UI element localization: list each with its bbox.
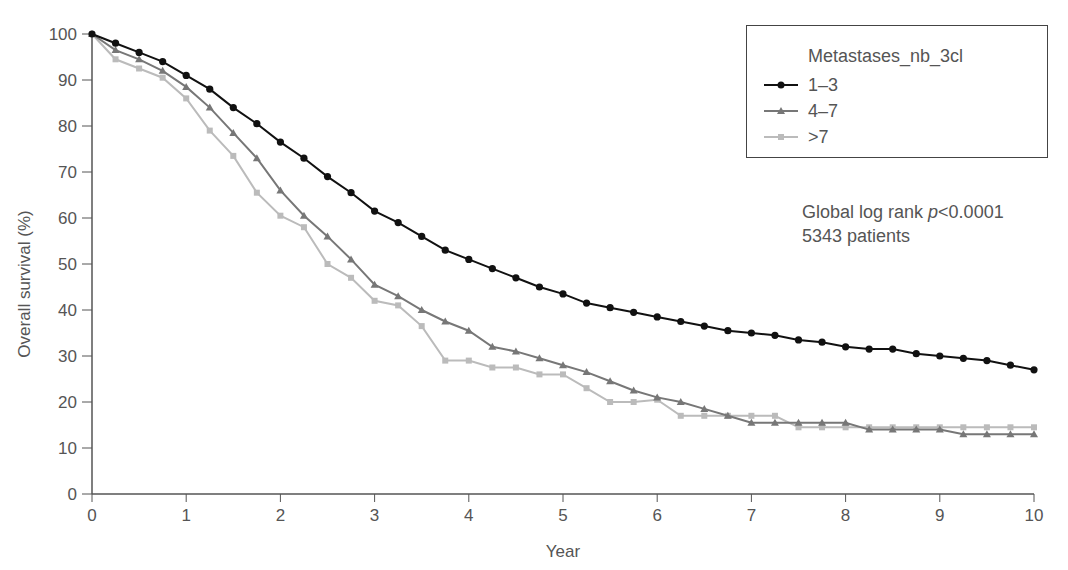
data-point xyxy=(207,128,213,134)
data-point xyxy=(631,399,637,405)
circle-marker-icon xyxy=(764,78,798,92)
data-point xyxy=(372,298,378,304)
y-tick-label: 60 xyxy=(58,209,77,228)
data-point xyxy=(371,208,378,215)
y-tick-label: 30 xyxy=(58,347,77,366)
x-tick-label: 2 xyxy=(276,506,285,525)
y-tick-label: 70 xyxy=(58,163,77,182)
data-point xyxy=(160,75,166,81)
data-point xyxy=(254,190,260,196)
data-point xyxy=(1031,424,1037,430)
legend-label: 1–3 xyxy=(808,75,838,96)
data-point xyxy=(136,49,143,56)
y-tick-label: 90 xyxy=(58,71,77,90)
data-point xyxy=(301,224,307,230)
data-point xyxy=(772,413,778,419)
data-point xyxy=(230,153,236,159)
data-point xyxy=(418,233,425,240)
data-point xyxy=(277,139,284,146)
patient-count: 5343 patients xyxy=(802,226,910,247)
data-point xyxy=(1007,424,1013,430)
x-tick-label: 5 xyxy=(558,506,567,525)
data-point xyxy=(347,189,354,196)
data-point xyxy=(866,346,873,353)
y-tick-label: 0 xyxy=(68,485,77,504)
data-point xyxy=(678,413,684,419)
data-point xyxy=(442,247,449,254)
x-tick-label: 8 xyxy=(841,506,850,525)
data-point xyxy=(324,173,331,180)
data-point xyxy=(325,261,331,267)
survival-chart: 0102030405060708090100012345678910YearOv… xyxy=(0,0,1068,570)
x-tick-label: 6 xyxy=(652,506,661,525)
data-point xyxy=(536,283,543,290)
data-point xyxy=(630,309,637,316)
data-point xyxy=(88,30,95,37)
data-point xyxy=(136,66,142,72)
data-point xyxy=(701,413,707,419)
legend-label: >7 xyxy=(808,127,829,148)
data-point xyxy=(1030,366,1037,373)
data-point xyxy=(559,290,566,297)
data-point xyxy=(607,304,614,311)
data-point xyxy=(442,358,448,364)
data-point xyxy=(489,265,496,272)
data-point xyxy=(1007,362,1014,369)
p-symbol: p xyxy=(928,202,938,222)
data-point xyxy=(183,95,189,101)
data-point xyxy=(513,365,519,371)
data-point xyxy=(419,323,425,329)
legend: Metastases_nb_3cl 1–3 4–7 >7 xyxy=(746,25,1048,158)
annotation-text: Global log rank xyxy=(802,202,928,222)
data-point xyxy=(584,385,590,391)
data-point xyxy=(960,424,966,430)
data-point xyxy=(159,58,166,65)
p-value: <0.0001 xyxy=(938,202,1004,222)
legend-item-1-3: 1–3 xyxy=(764,74,838,96)
data-point xyxy=(300,155,307,162)
y-tick-label: 20 xyxy=(58,393,77,412)
data-point xyxy=(607,399,613,405)
y-tick-label: 100 xyxy=(49,25,77,44)
data-point xyxy=(771,332,778,339)
data-point xyxy=(960,355,967,362)
legend-item-gt7: >7 xyxy=(764,126,829,148)
legend-title: Metastases_nb_3cl xyxy=(808,46,963,67)
data-point xyxy=(748,329,755,336)
x-tick-label: 0 xyxy=(87,506,96,525)
y-axis-label: Overall survival (%) xyxy=(15,210,34,357)
log-rank-annotation: Global log rank p<0.0001 xyxy=(802,202,1004,223)
legend-label: 4–7 xyxy=(808,101,838,122)
data-point xyxy=(183,72,190,79)
data-point xyxy=(395,219,402,226)
data-point xyxy=(466,358,472,364)
data-point xyxy=(795,336,802,343)
x-tick-label: 9 xyxy=(935,506,944,525)
data-point xyxy=(677,318,684,325)
x-tick-label: 7 xyxy=(747,506,756,525)
data-point xyxy=(512,274,519,281)
data-point xyxy=(701,323,708,330)
data-point xyxy=(230,104,237,111)
data-point xyxy=(724,327,731,334)
data-point xyxy=(277,213,283,219)
triangle-marker-icon xyxy=(764,104,798,118)
data-point xyxy=(818,339,825,346)
data-point xyxy=(489,365,495,371)
data-point xyxy=(112,40,119,47)
x-tick-label: 4 xyxy=(464,506,473,525)
data-point xyxy=(654,313,661,320)
x-tick-label: 10 xyxy=(1025,506,1044,525)
y-tick-label: 10 xyxy=(58,439,77,458)
data-point xyxy=(984,424,990,430)
data-point xyxy=(348,275,354,281)
data-point xyxy=(583,300,590,307)
data-point xyxy=(536,371,542,377)
data-point xyxy=(465,256,472,263)
x-axis-label: Year xyxy=(546,542,581,561)
data-point xyxy=(889,346,896,353)
x-tick-label: 1 xyxy=(181,506,190,525)
y-tick-label: 40 xyxy=(58,301,77,320)
data-point xyxy=(560,371,566,377)
data-point xyxy=(206,86,213,93)
